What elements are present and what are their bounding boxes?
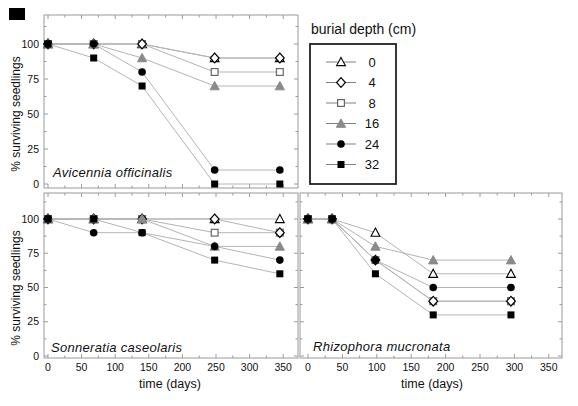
legend-entry: 4 xyxy=(326,75,376,90)
legend-entry-label: 4 xyxy=(368,75,375,90)
series-line-depth-0 xyxy=(48,44,280,58)
marker-square-filled-icon xyxy=(276,270,283,277)
x-tick-label: 200 xyxy=(437,361,455,373)
figure: 0255075100025507510005010015020025030035… xyxy=(0,0,578,406)
legend-entry-label: 32 xyxy=(365,157,379,172)
legend-entry-label: 0 xyxy=(368,55,375,70)
marker-circle-filled-icon xyxy=(372,256,380,264)
series-line-depth-24 xyxy=(48,44,280,170)
x-tick-label: 0 xyxy=(305,361,311,373)
x-tick-label: 350 xyxy=(540,361,558,373)
x-tick-label: 100 xyxy=(106,361,124,373)
marker-circle-filled-icon xyxy=(429,284,437,292)
marker-square-filled-icon xyxy=(276,181,283,188)
marker-square-filled-icon xyxy=(507,311,514,318)
legend-entry: 32 xyxy=(326,157,379,172)
y-axis-title-top: % surviving seedlings xyxy=(9,56,23,171)
x-tick-label: 250 xyxy=(471,361,489,373)
marker-square-filled-icon xyxy=(430,311,437,318)
x-tick-label: 0 xyxy=(45,361,51,373)
marker-circle-filled-icon xyxy=(138,68,146,76)
series-line-depth-4 xyxy=(48,219,280,233)
panel-frame xyxy=(44,15,298,188)
x-tick-label: 300 xyxy=(241,361,259,373)
legend-box xyxy=(310,44,396,184)
marker-circle-filled-icon xyxy=(276,166,284,174)
marker-square-filled-icon xyxy=(211,181,218,188)
legend-entry: 0 xyxy=(326,55,376,70)
legend-entry: 8 xyxy=(326,96,376,111)
y-tick-label: 50 xyxy=(27,281,39,293)
x-tick-label: 50 xyxy=(337,361,349,373)
marker-circle-filled-icon xyxy=(211,243,219,251)
x-tick-label: 250 xyxy=(207,361,225,373)
marker-square-filled-icon xyxy=(139,83,146,90)
marker-square-filled-icon xyxy=(139,229,146,236)
y-tick-label: 75 xyxy=(27,73,39,85)
marker-circle-filled-icon xyxy=(211,166,219,174)
y-tick-label: 25 xyxy=(27,143,39,155)
marker-circle-filled-icon xyxy=(337,140,345,148)
marker-circle-filled-icon xyxy=(90,229,98,237)
marker-square-open-icon xyxy=(211,69,218,76)
series-line-depth-32 xyxy=(48,44,280,184)
legend-entry-label: 24 xyxy=(365,137,379,152)
panel-title-avicennia: Avicennia officinalis xyxy=(53,165,173,180)
marker-square-filled-icon xyxy=(45,216,52,223)
panel-frame xyxy=(44,193,298,358)
y-tick-label: 50 xyxy=(27,108,39,120)
panel-title-sonneratia: Sonneratia caseolaris xyxy=(51,340,182,355)
y-tick-label: 25 xyxy=(27,315,39,327)
marker-triangle-gray-icon xyxy=(137,53,146,61)
x-tick-label: 200 xyxy=(174,361,192,373)
series-line-depth-4 xyxy=(48,44,280,58)
marker-circle-filled-icon xyxy=(90,40,98,48)
x-tick-label: 300 xyxy=(506,361,524,373)
marker-square-filled-icon xyxy=(90,216,97,223)
legend-entry: 24 xyxy=(326,137,379,152)
legend: 048162432 xyxy=(310,44,396,184)
legend-entry: 16 xyxy=(326,116,379,131)
marker-square-filled-icon xyxy=(45,41,52,48)
panel-avicennia: 0255075100 xyxy=(21,15,298,190)
y-tick-label: 100 xyxy=(21,213,39,225)
legend-entry-label: 16 xyxy=(365,116,379,131)
marker-circle-filled-icon xyxy=(507,284,515,292)
x-axis-title-left: time (days) xyxy=(139,377,201,391)
panel-title-rhizophora: Rhizophora mucronata xyxy=(313,339,451,354)
series-line-depth-16 xyxy=(48,44,280,86)
y-tick-label: 0 xyxy=(33,178,39,190)
marker-square-open-icon xyxy=(338,100,345,107)
x-tick-label: 100 xyxy=(368,361,386,373)
marker-square-open-icon xyxy=(211,229,218,236)
legend-title: burial depth (cm) xyxy=(311,21,416,37)
x-tick-label: 350 xyxy=(274,361,292,373)
marker-triangle-gray-icon xyxy=(371,242,380,250)
y-axis-title-bottom: % surviving seedlings xyxy=(9,230,23,345)
y-tick-label: 75 xyxy=(27,247,39,259)
marker-square-filled-icon xyxy=(338,161,345,168)
x-tick-label: 50 xyxy=(76,361,88,373)
series-line-depth-24 xyxy=(308,219,511,288)
x-axis-title-right: time (days) xyxy=(401,377,463,391)
marker-square-filled-icon xyxy=(372,270,379,277)
y-tick-label: 100 xyxy=(21,38,39,50)
x-tick-label: 150 xyxy=(140,361,158,373)
marker-square-filled-icon xyxy=(305,216,312,223)
marker-diamond-open-icon xyxy=(337,78,346,88)
marker-square-filled-icon xyxy=(90,55,97,62)
marker-circle-filled-icon xyxy=(276,256,284,264)
marker-square-open-icon xyxy=(276,69,283,76)
legend-entry-label: 8 xyxy=(368,96,375,111)
y-tick-label: 0 xyxy=(33,350,39,362)
marker-square-filled-icon xyxy=(211,257,218,264)
marker-square-filled-icon xyxy=(329,216,336,223)
x-tick-label: 150 xyxy=(402,361,420,373)
series-line-depth-32 xyxy=(308,219,511,315)
